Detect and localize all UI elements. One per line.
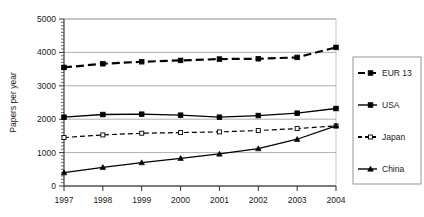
- chart-container: 0100020003000400050001997199819992000200…: [0, 0, 424, 217]
- legend-label-eur-13: EUR 13: [382, 68, 412, 78]
- data-point-usa-1998: [101, 112, 106, 117]
- x-tick-label-2004: 2004: [327, 195, 346, 205]
- legend: EUR 13USAJapanChina: [353, 57, 421, 184]
- legend-label-china: China: [382, 164, 404, 174]
- data-point-usa-2000: [178, 113, 183, 118]
- legend-label-usa: USA: [382, 100, 400, 110]
- y-tick-label-0: 0: [51, 181, 56, 191]
- legend-marker-usa: [368, 103, 373, 108]
- plot-area-frame: [64, 19, 336, 186]
- data-point-eur-13-2001: [217, 57, 222, 62]
- data-point-eur-13-2004: [334, 45, 339, 50]
- data-point-eur-13-1999: [139, 59, 144, 64]
- data-point-usa-1997: [62, 115, 67, 120]
- data-point-japan-2002: [256, 129, 260, 133]
- line-chart: 0100020003000400050001997199819992000200…: [0, 0, 424, 217]
- data-point-usa-2001: [217, 115, 222, 120]
- x-tick-label-2002: 2002: [249, 195, 268, 205]
- data-point-japan-1997: [62, 136, 66, 140]
- data-point-japan-2000: [179, 131, 183, 135]
- data-point-usa-2004: [334, 106, 339, 111]
- y-tick-label-4000: 4000: [37, 47, 56, 57]
- data-point-japan-2001: [217, 130, 221, 134]
- data-point-eur-13-1997: [62, 65, 67, 70]
- data-point-eur-13-2003: [295, 55, 300, 60]
- x-tick-label-2000: 2000: [171, 195, 190, 205]
- y-tick-label-1000: 1000: [37, 148, 56, 158]
- legend-label-japan: Japan: [382, 132, 405, 142]
- data-point-eur-13-1998: [101, 61, 106, 66]
- data-point-japan-2003: [295, 127, 299, 131]
- y-tick-label-5000: 5000: [37, 14, 56, 24]
- x-tick-label-1998: 1998: [93, 195, 112, 205]
- x-tick-label-2001: 2001: [210, 195, 229, 205]
- x-tick-label-2003: 2003: [288, 195, 307, 205]
- x-tick-label-1999: 1999: [132, 195, 151, 205]
- data-point-japan-1999: [140, 131, 144, 135]
- data-point-usa-2003: [295, 111, 300, 116]
- y-axis-title: Papers per year: [8, 72, 18, 133]
- data-point-japan-1998: [101, 133, 105, 137]
- data-point-eur-13-2002: [256, 56, 261, 61]
- y-tick-label-2000: 2000: [37, 114, 56, 124]
- data-point-usa-1999: [139, 112, 144, 117]
- data-point-eur-13-2000: [178, 58, 183, 63]
- legend-marker-eur-13: [368, 71, 373, 76]
- y-tick-label-3000: 3000: [37, 81, 56, 91]
- legend-marker-japan: [369, 135, 373, 139]
- x-tick-label-1997: 1997: [55, 195, 74, 205]
- data-point-usa-2002: [256, 113, 261, 118]
